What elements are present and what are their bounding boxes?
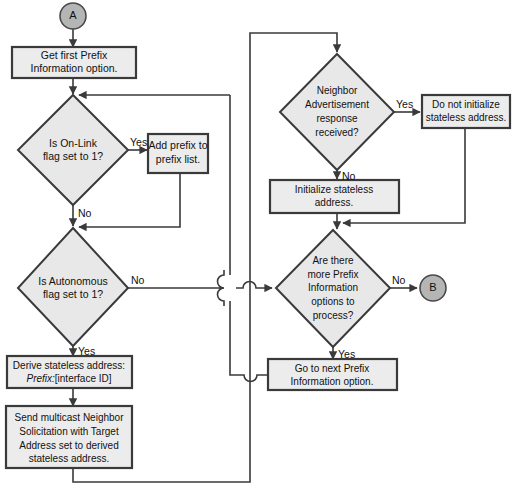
node-go-to-next-prefix-line-2: Information option. — [291, 376, 374, 387]
terminator-a-label: A — [69, 9, 77, 21]
node-initialize-stateless-line-2: address. — [315, 197, 353, 208]
node-na-received-line-4: received? — [315, 127, 359, 138]
node-more-prefix-options-line-2: more Prefix — [307, 269, 358, 280]
terminator-b: B — [420, 275, 446, 301]
node-is-onlink-line-1: Is On-Link — [49, 137, 98, 149]
node-na-received-line-1: Neighbor — [317, 85, 358, 96]
node-get-first-prefix: Get first Prefix Information option. — [12, 47, 136, 78]
edge-label-onlink-no: No — [78, 207, 92, 219]
edge-label-na-yes: Yes — [396, 98, 413, 110]
edge-gonext-to-trunk — [230, 301, 268, 382]
edge-label-more-no: No — [392, 274, 406, 286]
node-send-multicast-ns-line-3: Address set to derived — [19, 440, 119, 451]
node-do-not-initialize-line-1: Do not initialize — [432, 99, 500, 110]
edge-label-onlink-yes: Yes — [130, 136, 147, 148]
node-initialize-stateless: Initialize stateless address. — [270, 180, 399, 213]
node-is-autonomous-line-1: Is Autonomous — [38, 275, 107, 287]
node-more-prefix-options: Are there more Prefix Information option… — [276, 230, 390, 347]
node-derive-stateless-line-2: Prefix:[interface ID] — [26, 373, 111, 384]
node-is-onlink: Is On-Link flag set to 1? — [18, 95, 128, 205]
terminator-b-label: B — [429, 281, 436, 293]
node-send-multicast-ns-line-1: Send multicast Neighbor — [15, 412, 125, 423]
node-go-to-next-prefix: Go to next Prefix Information option. — [268, 359, 397, 390]
node-na-received: Neighbor Advertisement response received… — [280, 54, 394, 170]
flowchart-canvas: A Get first Prefix Information option. I… — [0, 0, 518, 492]
node-do-not-initialize-line-2: stateless address. — [426, 112, 507, 123]
node-derive-stateless-italic: Prefix: — [26, 373, 55, 384]
node-more-prefix-options-line-5: process? — [313, 310, 354, 321]
edge-label-more-yes: Yes — [338, 348, 355, 360]
node-derive-stateless-line-1: Derive stateless address: — [13, 360, 125, 371]
node-more-prefix-options-line-1: Are there — [312, 255, 354, 266]
edge-label-autonomous-no: No — [131, 274, 145, 286]
node-send-multicast-ns-line-2: Solicitation with Target — [19, 426, 119, 437]
node-is-onlink-line-2: flag set to 1? — [43, 150, 103, 162]
node-get-first-prefix-line-1: Get first Prefix — [41, 49, 108, 61]
node-go-to-next-prefix-line-1: Go to next Prefix — [295, 363, 369, 374]
node-is-autonomous-line-2: flag set to 1? — [43, 288, 103, 300]
flowchart-svg: A Get first Prefix Information option. I… — [0, 0, 518, 492]
edge-label-na-no: No — [342, 170, 356, 182]
node-more-prefix-options-line-4: options to — [311, 296, 355, 307]
node-add-prefix-line-1: Add prefix to — [149, 139, 208, 151]
node-do-not-initialize: Do not initialize stateless address. — [422, 95, 510, 128]
node-send-multicast-ns: Send multicast Neighbor Solicitation wit… — [6, 406, 132, 468]
node-na-received-line-2: Advertisement — [305, 99, 369, 110]
node-is-autonomous: Is Autonomous flag set to 1? — [18, 228, 128, 346]
node-derive-stateless: Derive stateless address: Prefix:[interf… — [7, 356, 132, 388]
node-derive-stateless-rest: [interface ID] — [55, 373, 112, 384]
node-na-received-line-3: response — [316, 113, 358, 124]
node-add-prefix: Add prefix to prefix list. — [148, 134, 208, 173]
node-initialize-stateless-line-1: Initialize stateless — [295, 184, 373, 195]
edge-label-autonomous-yes: Yes — [78, 345, 95, 357]
node-send-multicast-ns-line-4: stateless address. — [29, 453, 110, 464]
node-add-prefix-line-2: prefix list. — [156, 153, 200, 165]
terminator-a: A — [60, 3, 86, 29]
node-get-first-prefix-line-2: Information option. — [31, 62, 118, 74]
node-more-prefix-options-line-3: Information — [308, 282, 358, 293]
